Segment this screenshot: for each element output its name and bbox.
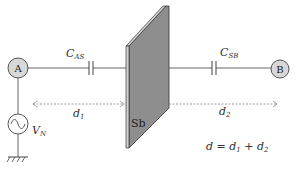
node-b-label: B (276, 64, 283, 75)
capacitor-sb (212, 61, 216, 75)
node-b: B (271, 60, 289, 78)
capacitor-as (89, 61, 93, 75)
csb-label: CSB (220, 46, 238, 60)
distance-equation: d = d1 + d2 (206, 140, 269, 154)
d2-label: d2 (219, 105, 231, 119)
source-label: VN (32, 124, 47, 138)
node-a-label: A (13, 63, 22, 74)
cas-label: CAS (66, 47, 84, 61)
plate-label: Sb (131, 117, 146, 130)
ac-source-icon (8, 114, 28, 134)
coupling-diagram: Sb CAS CSB A B (0, 0, 297, 172)
ground-icon (7, 157, 28, 162)
d1-label: d1 (73, 107, 85, 121)
node-a: A (8, 58, 28, 78)
